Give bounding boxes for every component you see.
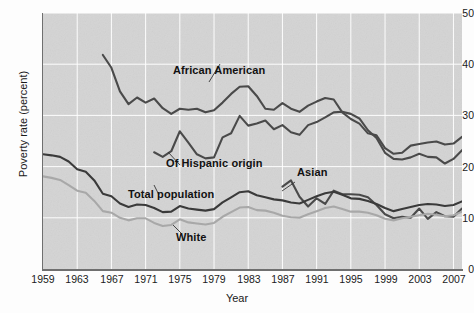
plot-area xyxy=(43,13,462,269)
x-axis-title: Year xyxy=(0,292,474,304)
x-tick-label-1963: 1963 xyxy=(57,274,97,285)
series-label-white: White xyxy=(176,231,206,243)
series-label-total-population: Total population xyxy=(128,188,214,200)
series-label-asian: Asian xyxy=(297,166,327,178)
paper-grain xyxy=(43,13,462,269)
poverty-rate-chart-figure: Poverty rate (percent) 50 40 30 20 10 0 xyxy=(0,0,474,313)
series-label-hispanic-origin: Of Hispanic origin xyxy=(166,157,263,169)
x-axis-line xyxy=(42,269,463,271)
x-tick-label-2007: 2007 xyxy=(434,274,474,285)
series-label-african-american: African American xyxy=(173,64,265,76)
series-canvas xyxy=(43,13,462,269)
x-tick-label-1995: 1995 xyxy=(331,274,371,285)
x-tick-label-1979: 1979 xyxy=(194,274,234,285)
y-axis-title: Poverty rate (percent) xyxy=(17,44,29,204)
